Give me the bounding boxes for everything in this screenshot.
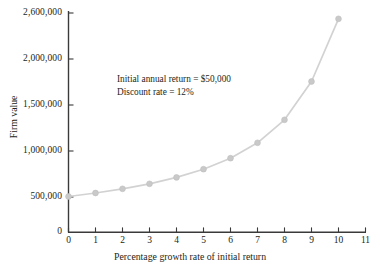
data-point [120,186,126,192]
chart-figure: 2,600,000 2,000,000 1,500,000 1,000,000 … [0,0,380,271]
y-tick-label-500000: 500,000 [0,192,62,202]
y-axis-ticks [69,13,74,197]
annotation-line-discount-rate: Discount rate = 12% [117,86,231,99]
x-tick-label-3: 3 [140,236,160,246]
x-tick-label-10: 10 [329,236,349,246]
data-point [336,16,342,22]
x-tick-label-5: 5 [194,236,214,246]
data-point [309,79,315,85]
y-tick-label-0: 0 [0,227,62,237]
x-tick-label-9: 9 [302,236,322,246]
data-markers [66,16,342,200]
data-point [66,194,72,200]
x-tick-label-4: 4 [167,236,187,246]
data-point [93,190,99,196]
data-point [228,155,234,161]
x-axis-ticks [69,227,366,232]
data-point [174,175,180,181]
chart-annotation: Initial annual return = $50,000 Discount… [117,73,231,99]
y-axis-title: Firm value [9,77,19,157]
y-tick-label-2600000: 2,600,000 [0,8,62,18]
y-tick-label-2000000: 2,000,000 [0,54,62,64]
data-point [201,166,207,172]
data-point [255,140,261,146]
x-tick-label-1: 1 [86,236,106,246]
data-point [282,117,288,123]
x-tick-label-0: 0 [59,236,79,246]
x-tick-label-2: 2 [113,236,133,246]
annotation-line-initial-return: Initial annual return = $50,000 [117,73,231,86]
x-tick-label-11: 11 [356,236,376,246]
data-point [147,181,153,187]
x-tick-label-8: 8 [275,236,295,246]
x-tick-label-6: 6 [221,236,241,246]
x-tick-label-7: 7 [248,236,268,246]
x-axis-title: Percentage growth rate of initial return [0,252,380,262]
